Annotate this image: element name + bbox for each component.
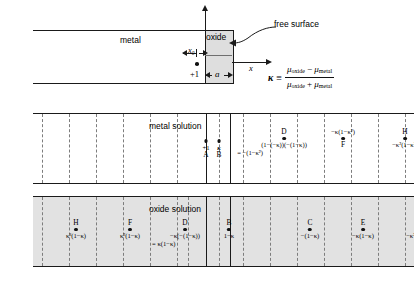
point-charge-label: +1 <box>190 70 199 79</box>
site-H-name: H <box>392 128 414 135</box>
x0-arrowhead-right-icon <box>203 50 208 56</box>
site-H-oxide-value: κ³(1−κ) <box>66 232 86 240</box>
site-B-oxide-value: 1−κ <box>224 232 234 240</box>
oxide-divider-1 <box>206 197 207 266</box>
site-G-oxide-value: −κ²(1−κ) <box>406 232 414 240</box>
site-F-name: F <box>331 141 355 148</box>
subscript-metal-den: metal <box>319 83 333 89</box>
kappa-definition-formula: κ ≡ μoxide−μmetal μoxide+μmetal <box>268 64 334 90</box>
site-B-dot <box>217 139 221 143</box>
site-H-oxide-dot <box>74 228 78 232</box>
site-F-oxide-name: F <box>120 219 140 226</box>
site-C-oxide: C −(1−κ) <box>301 219 319 240</box>
metal-solution-panel: metal solution +1 A κ B D (1−(−κ))(−(1−κ… <box>33 113 414 184</box>
plus-sign: + <box>307 79 312 89</box>
site-D-oxide-name: D <box>170 219 200 226</box>
site-F-oxide: F κ²(1−κ) <box>120 219 140 240</box>
a-label: a <box>215 70 220 79</box>
site-B-metal: κ B <box>217 138 222 159</box>
site-E-oxide-value: −κ(1−κ) <box>352 232 374 240</box>
figure-root: x metal oxide free surface x₀ a +1 κ ≡ <box>0 0 418 298</box>
site-B-oxide-name: B <box>224 219 234 226</box>
site-B-name: B <box>217 151 222 158</box>
site-D-metal: D (1−(−κ))(−(1−κ)) = −(1−κ²) <box>261 128 307 156</box>
a-arrowhead-right-icon <box>228 72 233 78</box>
site-D-dot <box>282 137 286 141</box>
vertical-axis <box>205 8 206 30</box>
site-D-oxide-value-simplified: = κ(1−κ) <box>152 240 200 248</box>
site-B-oxide-dot <box>227 228 231 232</box>
oxide-solution-panel: oxide solution H κ³(1−κ) F κ²(1−κ) D −κ(… <box>33 196 414 267</box>
x-axis-label: x <box>249 64 253 73</box>
site-D-value-simplified: = −(1−κ²) <box>237 149 307 157</box>
kappa-numerator: μoxide−μmetal <box>285 64 334 78</box>
x0-tick <box>196 49 197 57</box>
oxide-midline <box>205 55 232 56</box>
site-C-oxide-dot <box>308 228 312 232</box>
identity-symbol: ≡ <box>276 72 282 83</box>
free-surface-label: free surface <box>274 20 319 29</box>
site-H-oxide-name: H <box>66 219 86 226</box>
site-E-oxide-dot <box>361 228 365 232</box>
site-H-metal: H −κ²(1−κ²) <box>392 128 414 149</box>
site-A-dot <box>204 139 208 143</box>
oxide-solution-title: oxide solution <box>149 204 201 214</box>
figure-caption <box>2 289 416 298</box>
metal-slab <box>33 30 205 84</box>
site-E-oxide-name: E <box>352 219 374 226</box>
top-panel-geometry: x metal oxide free surface x₀ a +1 <box>0 0 418 100</box>
metal-solution-title: metal solution <box>149 121 201 131</box>
x0-label: x₀ <box>188 46 195 55</box>
site-C-oxide-name: C <box>301 219 319 226</box>
kappa-fraction: μoxide−μmetal μoxide+μmetal <box>285 64 334 90</box>
kappa-denominator: μoxide+μmetal <box>285 78 334 91</box>
subscript-oxide-den: oxide <box>291 83 305 89</box>
site-H-oxide: H κ³(1−κ) <box>66 219 86 240</box>
site-D-name: D <box>261 128 307 135</box>
site-A-name: A <box>202 151 209 158</box>
site-C-oxide-value: −(1−κ) <box>301 232 319 240</box>
site-B-oxide: B 1−κ <box>224 219 234 240</box>
oxide-label: oxide <box>206 33 226 42</box>
vertical-axis-arrowhead-icon <box>202 5 208 11</box>
site-D-oxide-value: −κ(−(1−κ)) <box>170 232 200 240</box>
site-F-metal: −κ(1−κ²) F <box>331 128 355 149</box>
metal-label: metal <box>120 36 141 45</box>
site-G-oxide: G −κ²(1−κ) <box>406 219 414 240</box>
free-surface-arrow-icon <box>228 26 278 48</box>
metal-oxide-divider-2 <box>230 114 231 183</box>
site-F-value: −κ(1−κ²) <box>331 128 355 136</box>
point-charge-dot <box>195 62 199 66</box>
site-E-oxide: E −κ(1−κ) <box>352 219 374 240</box>
site-F-oxide-dot <box>128 228 132 232</box>
subscript-metal-num: metal <box>319 68 333 74</box>
site-D-oxide: D −κ(−(1−κ)) = κ(1−κ) <box>170 219 200 247</box>
x0-arrowhead-left-icon <box>182 50 187 56</box>
site-A-metal: +1 A <box>202 138 209 159</box>
site-H-value: −κ²(1−κ²) <box>392 141 414 149</box>
site-F-oxide-value: κ²(1−κ) <box>120 232 140 240</box>
kappa-symbol: κ <box>268 72 273 83</box>
site-D-value: (1−(−κ))(−(1−κ)) <box>261 141 307 149</box>
subscript-oxide-num: oxide <box>291 68 305 74</box>
site-G-oxide-name: G <box>406 219 414 226</box>
a-arrowhead-left-icon <box>205 72 210 78</box>
site-D-oxide-dot <box>183 228 187 232</box>
site-H-dot <box>403 137 407 141</box>
minus-sign: − <box>307 64 312 74</box>
